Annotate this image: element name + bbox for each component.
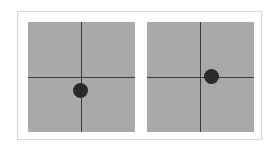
right-panel [147,22,254,132]
right-horizontal-axis [147,77,254,78]
right-dot-marker [204,69,219,84]
left-dot-marker [73,83,88,98]
left-panel [28,22,135,132]
left-horizontal-axis [28,77,135,78]
